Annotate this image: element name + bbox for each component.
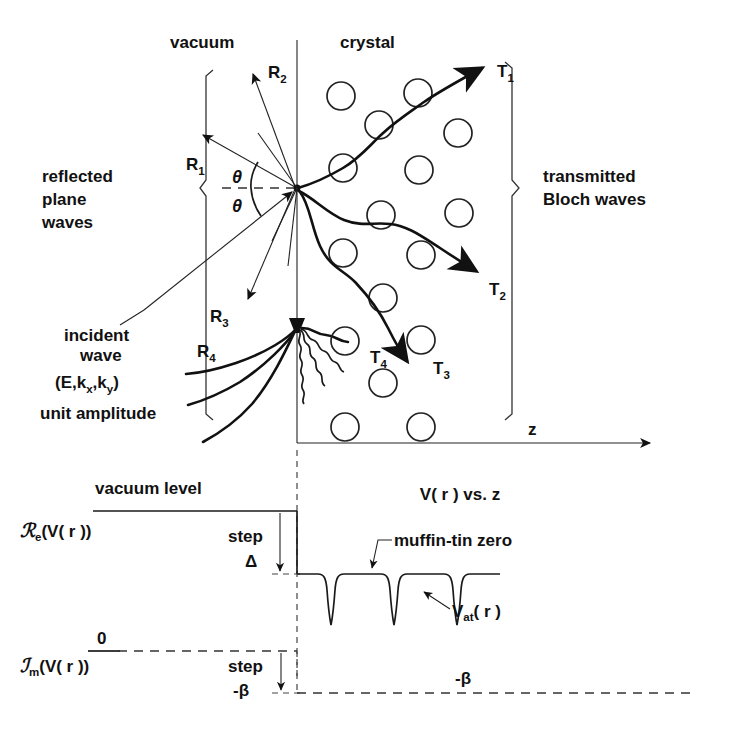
label-transmitted-line1: transmitted [543, 167, 636, 186]
leed-scattering-diagram: vacuum crystal reflected plane waves tra… [0, 0, 749, 751]
atom-circle [407, 326, 435, 354]
beam-label-T1: T1 [497, 62, 514, 84]
beam-label-T4: T4 [370, 348, 387, 370]
label-Im-V: ℐm(V( r )) [20, 655, 89, 678]
label-zero-level: 0 [97, 629, 106, 648]
atom-circle [405, 156, 433, 184]
region-label-crystal: crystal [340, 33, 395, 52]
atom-circle [365, 111, 393, 139]
label-Re-V: ℛe(V( r )) [20, 520, 91, 543]
label-reflected-line2: plane [42, 190, 86, 209]
evanescent-T4-d [302, 328, 348, 342]
beam-label-R4: R4 [197, 342, 216, 364]
label-reflected-line1: reflected [42, 167, 113, 186]
region-label-vacuum: vacuum [170, 33, 234, 52]
angle-arc-lower [251, 188, 261, 216]
atom-circle [407, 241, 435, 269]
V-at-leader [424, 592, 450, 609]
beam-label-R2: R2 [268, 63, 287, 85]
evanescent-origin-node [289, 318, 305, 333]
incident-leader-line [120, 310, 144, 325]
evanescent-wave-fan [186, 318, 348, 442]
bracket-reflected [200, 70, 213, 420]
atom-circle [445, 199, 473, 227]
atom-circle [369, 369, 397, 397]
ray-extra-1 [272, 188, 297, 241]
label-step-imag-word: step [228, 657, 263, 676]
label-step-real-word: step [228, 527, 263, 546]
potential-plot-title: V( r ) vs. z [420, 485, 500, 504]
atom-circle [327, 82, 355, 110]
label-V-at: Vat( r ) [452, 602, 501, 623]
caption-unit-amplitude: unit amplitude [40, 404, 156, 423]
beam-label-R1: R1 [186, 155, 205, 177]
label-transmitted-line2: Bloch waves [543, 190, 646, 209]
atom-circle [444, 119, 472, 147]
beam-label-T3: T3 [433, 359, 450, 381]
caption-incident-wavevector: (E,kx,ky) [55, 373, 119, 395]
beam-label-T2: T2 [489, 280, 506, 302]
label-reflected-line3: waves [41, 213, 93, 232]
label-muffin-tin-zero: muffin-tin zero [394, 531, 512, 550]
beam-arrow-incident [144, 192, 292, 310]
bracket-transmitted [505, 62, 519, 420]
angle-label-lower: θ [232, 196, 242, 216]
muffin-tin-zero-leader [372, 540, 392, 568]
caption-incident-wave-line2: wave [79, 346, 122, 365]
caption-incident-wave-line1: incident [64, 326, 130, 345]
ray-extra-2 [288, 188, 297, 266]
angle-label-upper: θ [232, 167, 242, 187]
crystal-atom-lattice [327, 79, 473, 441]
bloch-wave-T3 [300, 192, 407, 361]
atom-circle [404, 79, 432, 107]
label-beta-level: -β [455, 669, 471, 688]
axis-label-z: z [528, 420, 537, 439]
figure-canvas: vacuum crystal reflected plane waves tra… [0, 0, 749, 751]
label-step-real-value: Δ [245, 552, 257, 571]
beam-arrow-R1 [203, 135, 295, 187]
atom-circle [369, 284, 397, 312]
beam-label-R3: R3 [210, 307, 229, 329]
evanescent-T4-a [299, 330, 305, 404]
atom-circle [331, 413, 359, 441]
beam-arrow-R2 [253, 74, 295, 187]
bloch-wave-T1 [298, 68, 482, 188]
atom-circle [407, 413, 435, 441]
label-step-imag-value: -β [233, 681, 249, 700]
label-vacuum-level: vacuum level [95, 479, 202, 498]
